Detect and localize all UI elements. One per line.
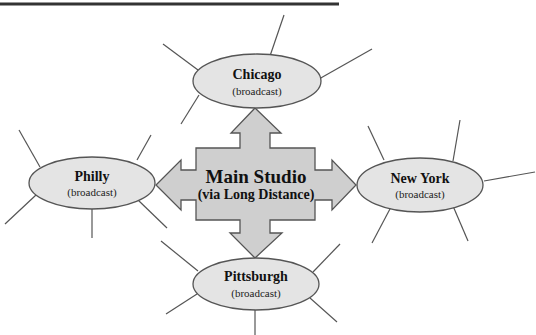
node-title: Pittsburgh: [224, 269, 288, 284]
spoke-line: [484, 172, 535, 181]
spoke-line: [310, 298, 337, 322]
node-subtitle: (broadcast): [67, 186, 117, 199]
node-title: Philly: [74, 169, 109, 184]
node-pittsburgh: Pittsburgh (broadcast): [193, 258, 319, 310]
node-subtitle: (broadcast): [231, 287, 281, 300]
spoke-line: [372, 207, 391, 243]
node-title: Chicago: [233, 67, 282, 82]
spoke-line: [166, 294, 197, 314]
node-ellipse: [193, 258, 319, 310]
spoke-line: [270, 15, 284, 56]
hub-title: Main Studio: [206, 166, 307, 187]
spoke-line: [453, 206, 468, 241]
spoke-line: [5, 195, 36, 224]
spoke-line: [313, 244, 340, 272]
spoke-line: [163, 44, 198, 70]
node-chicago: Chicago (broadcast): [193, 54, 321, 108]
node-philly: Philly (broadcast): [29, 157, 155, 209]
spoke-line: [138, 200, 167, 228]
spoke-line: [368, 126, 384, 160]
broadcast-network-diagram: Main Studio (via Long Distance) Chicago …: [0, 0, 536, 335]
spoke-line: [453, 120, 460, 161]
node-subtitle: (broadcast): [232, 85, 282, 98]
node-new-york: New York (broadcast): [357, 158, 483, 212]
spoke-line: [137, 135, 151, 160]
spoke-line: [181, 95, 199, 124]
spoke-line: [161, 241, 198, 271]
spoke-line: [19, 130, 40, 167]
node-title: New York: [391, 171, 450, 186]
main-studio-hub: Main Studio (via Long Distance): [156, 108, 356, 258]
node-subtitle: (broadcast): [395, 188, 445, 201]
hub-subtitle: (via Long Distance): [198, 187, 315, 203]
spoke-line: [319, 49, 372, 79]
